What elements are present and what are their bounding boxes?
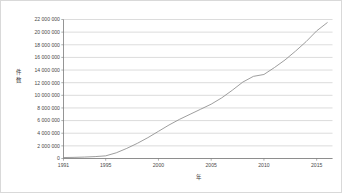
y-tick-label: 14 000 000 (34, 67, 60, 73)
x-tick-label: 2000 (153, 162, 164, 168)
y-axis-title-char-1: 件 (16, 68, 22, 76)
y-tick-label: 2 000 000 (37, 143, 60, 149)
y-tick-label: 6 000 000 (37, 117, 60, 123)
y-tick-label: 20 000 000 (34, 29, 60, 35)
x-tick-label: 1991 (58, 162, 69, 168)
chart-figure: 02 000 0004 000 0006 000 0008 000 00010 … (0, 0, 342, 193)
series-line (64, 23, 328, 158)
y-tick-label: 10 000 000 (34, 92, 60, 98)
y-tick-label: 0 (57, 155, 60, 161)
x-tick-label: 1995 (100, 162, 111, 168)
x-tick-label: 2010 (258, 162, 269, 168)
y-tick-label: 18 000 000 (34, 42, 60, 48)
y-axis-title: 件 数 (16, 68, 22, 84)
y-tick-label: 4 000 000 (37, 130, 60, 136)
y-tick-label: 22 000 000 (34, 16, 60, 22)
x-tick-labels: 199119952000200520102015 (58, 162, 323, 168)
x-tick-label: 2005 (206, 162, 217, 168)
x-tick-label: 2015 (311, 162, 322, 168)
y-tick-labels: 02 000 0004 000 0006 000 0008 000 00010 … (34, 16, 60, 161)
y-tick-label: 8 000 000 (37, 105, 60, 111)
y-tick-label: 12 000 000 (34, 80, 60, 86)
y-tick-label: 16 000 000 (34, 54, 60, 60)
data-series (64, 23, 328, 158)
y-axis-title-char-2: 数 (16, 76, 22, 84)
gridlines (64, 20, 333, 159)
line-chart: 02 000 0004 000 0006 000 0008 000 00010 … (1, 1, 342, 193)
x-axis-title: 年 (196, 173, 202, 181)
